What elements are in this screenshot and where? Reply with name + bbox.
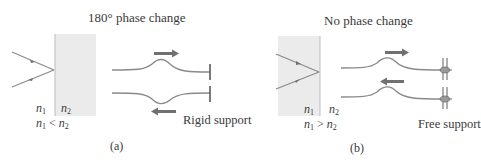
arrow-left-icon — [380, 78, 404, 86]
arrow-right-icon — [385, 49, 409, 57]
panel-b-title: No phase change — [324, 13, 413, 29]
free-support-rod-bottom — [440, 87, 452, 109]
incident-pulse-string — [112, 60, 210, 73]
panel-b-free-reflection: No phase change n1 n2 n1 > n2 Free suppo… — [240, 0, 480, 166]
reflected-pulse-string — [341, 87, 445, 99]
free-support-rod-top — [440, 58, 452, 80]
index-relation: n1 > n2 — [304, 117, 337, 132]
panel-a-caption: (a) — [110, 139, 123, 154]
panel-a-rigid-reflection: 180° phase change n1 n2 n1 < n2 Rigid su… — [0, 0, 240, 166]
n2-label: n2 — [61, 101, 71, 116]
n1-label: n1 — [36, 101, 46, 116]
arrow-left-icon — [151, 108, 176, 116]
panel-b-caption: (b) — [350, 141, 364, 156]
index-relation: n1 < n2 — [36, 116, 69, 131]
panel-a-title: 180° phase change — [88, 10, 186, 26]
light-rays — [12, 52, 54, 87]
n2-label: n2 — [329, 102, 339, 117]
reflected-pulse-string — [112, 93, 210, 104]
incident-pulse-string — [341, 58, 445, 70]
n1-label: n1 — [304, 102, 314, 117]
arrow-right-icon — [154, 50, 179, 58]
free-support-label: Free support — [418, 117, 481, 132]
